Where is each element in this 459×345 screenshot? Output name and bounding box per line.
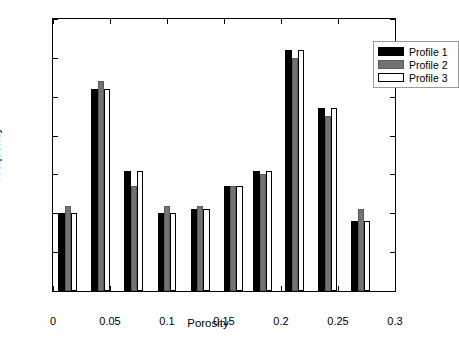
bar xyxy=(197,206,203,291)
y-axis-tick xyxy=(53,58,58,59)
x-axis-tick-top xyxy=(395,19,396,24)
y-axis-tick-right xyxy=(390,291,395,292)
bar xyxy=(137,171,143,291)
x-axis-tick-top xyxy=(281,19,282,24)
x-axis-tick-top xyxy=(167,19,168,24)
x-axis-tick-label: 0.05 xyxy=(80,315,140,327)
x-axis-tick-top xyxy=(338,19,339,24)
bar xyxy=(224,186,230,291)
bar xyxy=(124,171,130,291)
bar xyxy=(65,206,71,291)
x-axis-tick-label: 0.15 xyxy=(194,315,254,327)
bar xyxy=(292,58,298,291)
legend-item: Profile 3 xyxy=(378,71,454,84)
x-axis-tick-label: 0.2 xyxy=(251,315,311,327)
x-axis-tick xyxy=(395,286,396,291)
y-axis-tick xyxy=(53,174,58,175)
bar xyxy=(351,221,357,291)
y-axis-tick xyxy=(53,97,58,98)
bar xyxy=(358,209,364,291)
bar xyxy=(104,89,110,291)
y-axis-tick-right xyxy=(390,97,395,98)
bar xyxy=(58,213,64,291)
legend-swatch-profile-3 xyxy=(378,73,404,82)
bar xyxy=(236,186,242,291)
y-axis-tick-right xyxy=(390,213,395,214)
bar xyxy=(298,50,304,291)
x-axis-tick-label: 0.25 xyxy=(308,315,368,327)
y-axis-tick xyxy=(53,213,58,214)
bar xyxy=(203,209,209,291)
bar xyxy=(191,209,197,291)
bar xyxy=(98,81,104,291)
bar xyxy=(331,108,337,291)
legend-swatch-profile-2 xyxy=(378,60,404,69)
y-axis-tick xyxy=(53,252,58,253)
bar xyxy=(170,213,176,291)
x-axis-tick-label: 0 xyxy=(23,315,83,327)
y-axis-tick-right xyxy=(390,252,395,253)
x-axis-tick-label: 0.3 xyxy=(365,315,425,327)
bar xyxy=(230,186,236,291)
bar xyxy=(260,174,266,291)
legend-label-profile-2: Profile 2 xyxy=(409,59,448,71)
y-axis-tick-right xyxy=(390,136,395,137)
plot-frame: 01020304050607000.050.10.150.20.250.3 Pr… xyxy=(52,18,396,292)
y-axis-title: Frequency xyxy=(0,128,2,182)
chart-legend: Profile 1 Profile 2 Profile 3 xyxy=(373,41,459,88)
legend-item: Profile 2 xyxy=(378,58,454,71)
bar xyxy=(91,89,97,291)
bar xyxy=(325,116,331,291)
x-axis-tick xyxy=(338,286,339,291)
bar xyxy=(158,213,164,291)
bar xyxy=(364,221,370,291)
x-axis-tick xyxy=(53,286,54,291)
bar xyxy=(266,171,272,291)
y-axis-tick-right xyxy=(390,174,395,175)
bar xyxy=(285,50,291,291)
x-axis-tick-top xyxy=(110,19,111,24)
bar xyxy=(71,213,77,291)
x-axis-tick-top xyxy=(53,19,54,24)
legend-label-profile-1: Profile 1 xyxy=(409,46,448,58)
x-axis-tick xyxy=(281,286,282,291)
legend-swatch-profile-1 xyxy=(378,47,404,56)
y-axis-tick xyxy=(53,291,58,292)
x-axis-tick-label: 0.1 xyxy=(137,315,197,327)
bar xyxy=(164,206,170,291)
legend-label-profile-3: Profile 3 xyxy=(409,72,448,84)
legend-item: Profile 1 xyxy=(378,45,454,58)
y-axis-tick xyxy=(53,136,58,137)
bar xyxy=(318,108,324,291)
x-axis-tick-top xyxy=(224,19,225,24)
bar xyxy=(253,171,259,291)
bar xyxy=(131,186,137,291)
